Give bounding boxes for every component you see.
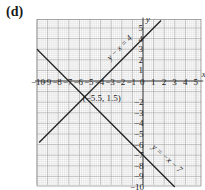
y-tick-label: 1	[139, 65, 144, 75]
intersection-label: (−5.5, 1.5)	[83, 93, 121, 103]
y-tick-label: −4	[134, 118, 144, 128]
x-tick-label: −9	[42, 77, 52, 87]
y-tick-label: 4	[139, 34, 144, 44]
x-tick-label: −1	[126, 77, 136, 87]
y-tick-label: 5	[139, 23, 144, 33]
y-tick-label: −7	[134, 150, 144, 160]
x-tick-label: −7	[63, 77, 73, 87]
y-tick-label: −5	[134, 129, 144, 139]
x-tick-label: −6	[73, 77, 83, 87]
x-tick-label: −2	[116, 77, 126, 87]
x-tick-label: 0	[140, 77, 145, 87]
y-tick-label: −8	[134, 161, 144, 171]
x-tick-label: −4	[95, 77, 105, 87]
y-axis-label: y	[145, 14, 150, 24]
x-tick-label: −8	[52, 77, 62, 87]
y-tick-label: 3	[139, 44, 144, 54]
x-tick-label: 5	[194, 77, 199, 87]
x-tick-label: 3	[172, 77, 177, 87]
coordinate-graph: xy −10−9−8−7−6−5−4−3−2−101234554321−2−3−…	[0, 0, 205, 190]
x-tick-label: 2	[162, 77, 167, 87]
plotted-lines	[37, 21, 175, 187]
x-tick-label: −5	[84, 77, 94, 87]
label-y-minus-x-eq-4: y − x = 4	[104, 32, 135, 63]
x-axis-label: x	[201, 69, 205, 79]
y-tick-label: −9	[134, 171, 144, 181]
x-tick-label: 4	[183, 77, 188, 87]
x-tick-label: −3	[105, 77, 115, 87]
label-y-eq-neg-x-minus-7: y = −x − 7	[149, 141, 185, 175]
y-tick-label: 2	[139, 55, 144, 65]
x-tick-label: 1	[151, 77, 156, 87]
y-tick-label: −6	[134, 140, 144, 150]
y-tick-label: −10	[130, 182, 145, 190]
y-tick-label: −2	[134, 97, 144, 107]
y-tick-label: −3	[134, 108, 144, 118]
line-y-eq-neg-x-minus-7	[37, 49, 175, 187]
